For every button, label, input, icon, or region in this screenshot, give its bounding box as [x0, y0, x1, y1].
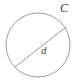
- circumference-label: C: [60, 2, 68, 14]
- diameter-label: d: [41, 45, 47, 56]
- circle-outline: [6, 13, 70, 77]
- circle-diagram-figure: C d: [0, 0, 79, 83]
